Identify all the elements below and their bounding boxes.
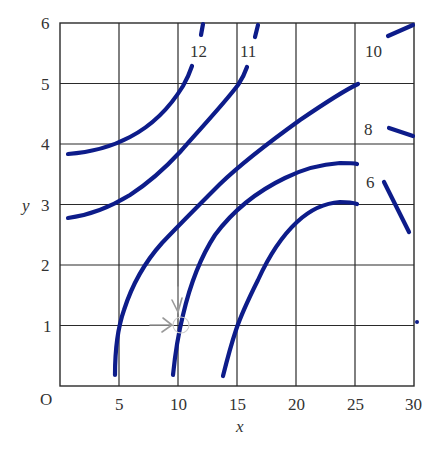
contour-plot: 6 5 4 3 2 1 y O 5 10 15 20 25 30 x 12 11…: [0, 0, 440, 455]
contour-8-top: [389, 128, 413, 136]
y-tick-4: 4: [41, 135, 50, 154]
contour-11: [68, 67, 247, 218]
contour-12: [68, 66, 192, 154]
y-tick-6: 6: [41, 14, 50, 33]
x-tick-10: 10: [170, 395, 187, 414]
x-tick-15: 15: [229, 395, 246, 414]
x-axis-label: x: [235, 417, 244, 436]
y-tick-2: 2: [41, 256, 50, 275]
contour-6: [223, 202, 357, 376]
y-tick-3: 3: [41, 196, 50, 215]
contour-12-top: [201, 24, 203, 35]
contour-label-10: 10: [365, 42, 382, 61]
contour-label-11: 11: [240, 42, 256, 61]
y-tick-1: 1: [43, 317, 52, 336]
contour-label-8: 8: [364, 120, 373, 139]
x-tick-25: 25: [347, 395, 364, 414]
contour-label-12: 12: [190, 42, 207, 61]
contour-label-6: 6: [366, 173, 375, 192]
x-tick-20: 20: [288, 395, 305, 414]
arrow-down-icon: [172, 287, 182, 312]
contour-10-top: [388, 25, 413, 36]
marker-dot: [415, 320, 419, 324]
y-axis-label: y: [20, 196, 30, 215]
y-tick-5: 5: [41, 75, 50, 94]
x-tick-30: 30: [405, 395, 422, 414]
contour-6-top: [384, 182, 409, 232]
arrow-right-icon: [150, 318, 172, 332]
origin-label: O: [40, 390, 52, 409]
x-tick-5: 5: [115, 395, 124, 414]
contour-11-top: [255, 25, 258, 37]
